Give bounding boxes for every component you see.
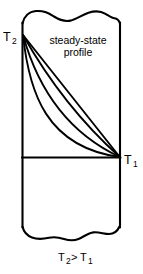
condition-t2-symbol: T — [58, 251, 65, 263]
temperature-condition-caption: T 2 > T 1 — [58, 251, 93, 266]
condition-t1-subscript: 1 — [88, 256, 93, 266]
cold-temperature-label: T 1 — [124, 153, 138, 169]
steady-state-annotation: steady-state profile — [49, 34, 106, 58]
condition-operator: > — [71, 251, 77, 263]
steady-state-profile-figure: T 2 T 1 steady-state profile T 2 > T 1 — [0, 0, 143, 274]
steady-state-annotation-line-1: steady-state — [49, 34, 106, 46]
bottom-break-line — [23, 227, 120, 241]
steady-state-annotation-line-2: profile — [64, 46, 93, 58]
figure-canvas: T 2 T 1 steady-state profile T 2 > T 1 — [0, 0, 143, 274]
hot-temperature-subscript: 2 — [12, 36, 17, 46]
condition-t1-symbol: T — [80, 251, 87, 263]
hot-temperature-symbol: T — [3, 30, 11, 44]
cold-temperature-subscript: 1 — [133, 159, 138, 169]
hot-temperature-label: T 2 — [3, 30, 17, 46]
cold-temperature-symbol: T — [124, 153, 132, 167]
top-break-line — [23, 11, 121, 24]
